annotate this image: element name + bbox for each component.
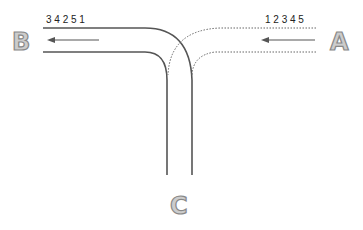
track-b-to-c-inner [43, 52, 167, 175]
station-label-a: A [330, 28, 349, 56]
track-b-to-c-outer [43, 28, 192, 175]
arrow-left-icon-b [47, 37, 99, 43]
arrow-left-icon-a [261, 37, 315, 43]
station-label-c: C [170, 192, 188, 220]
station-label-b: B [12, 28, 30, 56]
railway-diagram: 3 4 2 5 1 1 2 3 4 5 B A C [0, 0, 363, 230]
sequence-out-label: 3 4 2 5 1 [46, 14, 85, 25]
track-a-to-c-inner [192, 52, 316, 75]
sequence-in-label: 1 2 3 4 5 [265, 14, 304, 25]
